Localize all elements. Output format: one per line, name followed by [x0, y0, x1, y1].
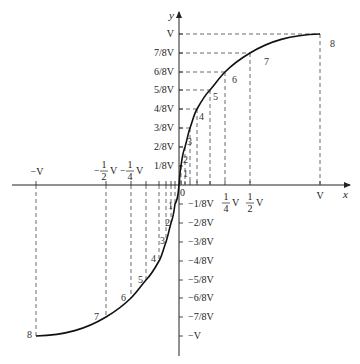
- point-label: 2: [183, 154, 188, 165]
- point-label: 1: [168, 200, 173, 211]
- y-label: 4/8V: [154, 103, 175, 114]
- y-labels-negative: −1/8V −2/8V −3/8V −4/8V −5/8V −6/8V −7/8…: [188, 198, 214, 341]
- x-label-neg-quarter-sign: −: [120, 165, 126, 176]
- compression-curve-negative: [36, 185, 179, 336]
- y-label: −1/8V: [188, 198, 214, 209]
- x-label-neg-half-den: 2: [102, 171, 107, 182]
- point-label: 7: [264, 56, 269, 67]
- point-label: 8: [27, 329, 32, 340]
- x-label-half-unit: V: [256, 197, 264, 208]
- x-label-neg-quarter-den: 4: [128, 171, 133, 182]
- y-label: 1/8V: [154, 160, 175, 171]
- y-label: −5/8V: [188, 274, 214, 285]
- x-label-neg-half-sign: −: [94, 165, 100, 176]
- y-label: 5/8V: [154, 84, 175, 95]
- x-axis-label: x: [342, 188, 348, 200]
- x-labels: −V − 1 2 V − 1 4 V 1 4 V 1 2 V V: [31, 159, 325, 214]
- point-label: 7: [94, 311, 99, 322]
- y-label: 7/8V: [154, 47, 175, 58]
- point-label: 5: [138, 274, 143, 285]
- x-label-neg-v: −V: [31, 166, 45, 177]
- point-label: 6: [232, 74, 237, 85]
- y-label: −7/8V: [188, 311, 214, 322]
- x-ticks: [36, 181, 320, 185]
- point-label: 4: [151, 253, 156, 264]
- point-label: 4: [199, 111, 204, 122]
- x-label-neg-half-num: 1: [102, 159, 107, 170]
- y-label: 2/8V: [154, 141, 175, 152]
- x-label-neg-half-unit: V: [110, 165, 118, 176]
- x-label-quarter-num: 1: [224, 191, 229, 202]
- origin-label: 0: [180, 187, 185, 198]
- point-label: 8: [330, 38, 335, 49]
- y-label: 6/8V: [154, 66, 175, 77]
- point-label: 3: [160, 235, 165, 246]
- y-label: −6/8V: [188, 292, 214, 303]
- point-label: 1: [183, 168, 188, 179]
- compression-curve-positive: [179, 34, 320, 185]
- x-label-neg-quarter-num: 1: [128, 159, 133, 170]
- vertical-guides-positive: [181, 34, 320, 184]
- diagram-svg: y x 0 1/8V 2/8V 3/8V 4/8V 5/8V 6/8V 7/8V…: [0, 0, 360, 364]
- y-label: −4/8V: [188, 255, 214, 266]
- point-label: 5: [213, 91, 218, 102]
- point-labels-positive: 1 2 3 4 5 6 7 8: [183, 38, 335, 179]
- y-label: −2/8V: [188, 217, 214, 228]
- x-label-half-den: 2: [248, 203, 253, 214]
- y-label: −V: [188, 330, 202, 341]
- x-label-neg-quarter-unit: V: [136, 165, 144, 176]
- x-label-quarter-den: 4: [224, 203, 229, 214]
- point-label: 3: [187, 136, 192, 147]
- point-labels-negative: 1 2 3 4 5 6 7 8: [27, 200, 173, 340]
- x-label-v: V: [316, 190, 324, 201]
- y-label: V: [167, 28, 175, 39]
- y-labels-positive: 1/8V 2/8V 3/8V 4/8V 5/8V 6/8V 7/8V V: [154, 28, 175, 171]
- y-label: −3/8V: [188, 236, 214, 247]
- y-label: 3/8V: [154, 122, 175, 133]
- x-label-quarter-unit: V: [232, 197, 240, 208]
- compander-curve-diagram: y x 0 1/8V 2/8V 3/8V 4/8V 5/8V 6/8V 7/8V…: [0, 0, 360, 364]
- point-label: 6: [121, 292, 126, 303]
- y-axis-label: y: [168, 9, 174, 21]
- x-label-half-num: 1: [248, 191, 253, 202]
- point-label: 2: [165, 217, 170, 228]
